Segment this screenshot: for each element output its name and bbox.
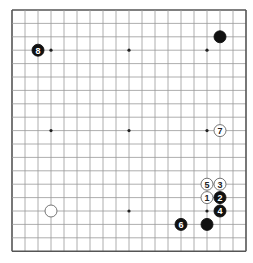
star-point — [49, 49, 52, 52]
black-stone — [201, 218, 213, 230]
black-stone: 2 — [214, 192, 226, 204]
star-point — [127, 49, 130, 52]
star-point — [127, 209, 130, 212]
star-point — [205, 129, 208, 132]
star-point — [127, 129, 130, 132]
white-stone — [45, 205, 57, 217]
black-stone: 4 — [214, 205, 226, 217]
move-number: 1 — [204, 193, 209, 203]
white-stone: 1 — [201, 192, 213, 204]
go-board[interactable]: 12345678 — [0, 0, 253, 263]
move-number: 2 — [217, 193, 222, 203]
star-point — [205, 209, 208, 212]
move-number: 3 — [217, 180, 222, 190]
star-point — [205, 49, 208, 52]
move-number: 4 — [217, 206, 222, 216]
black-stone — [214, 31, 226, 43]
black-stone: 6 — [175, 218, 187, 230]
black-stone: 8 — [32, 44, 44, 56]
star-point — [49, 129, 52, 132]
white-stone: 5 — [201, 178, 213, 190]
move-number: 8 — [35, 46, 40, 56]
move-number: 5 — [204, 180, 209, 190]
white-stone: 3 — [214, 178, 226, 190]
move-number: 7 — [217, 126, 222, 136]
white-stone: 7 — [214, 125, 226, 137]
move-number: 6 — [178, 220, 183, 230]
